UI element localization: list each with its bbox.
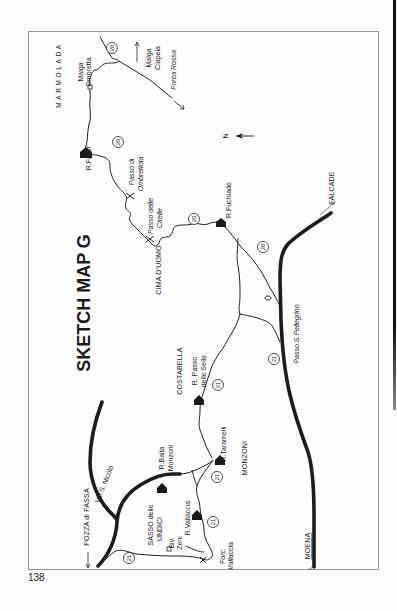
label-cima-duomo: CIMA D'UOMO [155,245,162,295]
label-passo-ombrettola-1: Passo di [128,158,135,185]
route-marker-20: 20 [189,214,200,225]
label-r-baita-monzoni-2: Monzoni [167,444,174,471]
route-marker-20: 20 [107,43,118,54]
label-r-passo-selle-1: R. Passo [191,357,198,386]
label-forc-vallaccia-1: Forc. [219,548,226,564]
label-forca-rossa: Forca Rossa [170,50,177,90]
label-forc-vallaccia-2: Vallaccia [227,542,234,570]
hut-icon-fuchiade [216,218,226,227]
label-r-vallaccia: R.Vallaccia [184,501,191,536]
label-r-passo-selle-2: delle Selle [200,355,207,387]
route-marker-21: 21 [208,517,219,528]
trail-fuchiade-loop [222,224,280,342]
label-malga-ombretta-2: Ombretta [85,57,92,86]
arrow-forca-rossa [174,101,184,109]
pass-marker-ombrettola [126,193,134,199]
label-r-baita-monzoni-1: R.Baita [158,446,165,469]
svg-text:21: 21 [214,473,220,480]
label-passo-cirelle-2: Cirelle [156,208,163,228]
map-title: SKETCH MAP G [74,234,94,372]
label-biv-zeni-1: Biv. [168,537,175,548]
page-edge-shadow [393,0,396,410]
route-marker-20: 20 [258,242,269,253]
label-malga-ombretta-1: Malga [77,62,85,81]
page-number: 138 [28,572,45,583]
label-passo-ombrettola-2: Ombrettola [137,157,144,192]
hut-icon-baita-monzoni [157,483,167,493]
label-passo-cirelle-1: Passo delle [147,198,154,234]
route-marker-21: 21 [212,472,223,483]
label-r-falier: R.Falier [85,145,92,170]
arrow-malga-ciapela [135,42,139,62]
route-marker-21: 21 [124,553,135,564]
label-moena: MOENA [304,533,311,560]
svg-text:21: 21 [210,518,216,525]
route-marker-21: 21 [213,380,224,391]
route-marker-20: 20 [113,137,124,148]
svg-text:20: 20 [109,44,115,51]
label-malga-ciapela-2: Ciapela [154,46,162,70]
north-arrow-icon: N [222,133,254,139]
north-label: N [222,133,229,138]
sketch-map: N 20 20 20 20 21 21 21 21 21 SKETCH MAP … [0,0,397,611]
arrow-pozza-di-fassa [86,552,90,568]
label-r-fuchiade: R.Fuchiade [225,182,232,218]
label-costabella: COSTABELLA [176,347,183,395]
svg-text:20: 20 [191,215,197,222]
road-pozza-baita [98,474,180,566]
road-falcade-moena [280,213,331,567]
svg-text:21: 21 [126,554,132,561]
label-marmolada: MARMOLADA [55,42,62,107]
svg-text:20: 20 [115,138,121,145]
label-sasso-undici-2: UNDICI [156,517,163,541]
label-sasso-undici-1: SASSO delle [147,504,154,545]
label-val-s-nicolo: Val S. Nicolò [93,464,114,503]
svg-text:21: 21 [215,381,221,388]
svg-text:21: 21 [271,355,277,362]
svg-text:20: 20 [260,243,266,250]
guidebook-page: N 20 20 20 20 21 21 21 21 21 SKETCH MAP … [0,0,397,611]
label-biv-zeni-2: Zeni [176,536,183,550]
label-monzoni: MONZONI [241,441,248,475]
label-r-taramelli: R.Taramelli [220,426,227,461]
label-passo-s-pellegrino: Passo S.Pellegrino [293,304,301,363]
route-marker-21: 21 [269,354,280,365]
label-malga-ciapela-1: Malga [145,48,153,67]
label-falcade: FALCADE [328,171,335,204]
trail-small-lake [265,296,271,300]
label-pozza-di-fassa: POZZA di FASSA [83,488,90,546]
